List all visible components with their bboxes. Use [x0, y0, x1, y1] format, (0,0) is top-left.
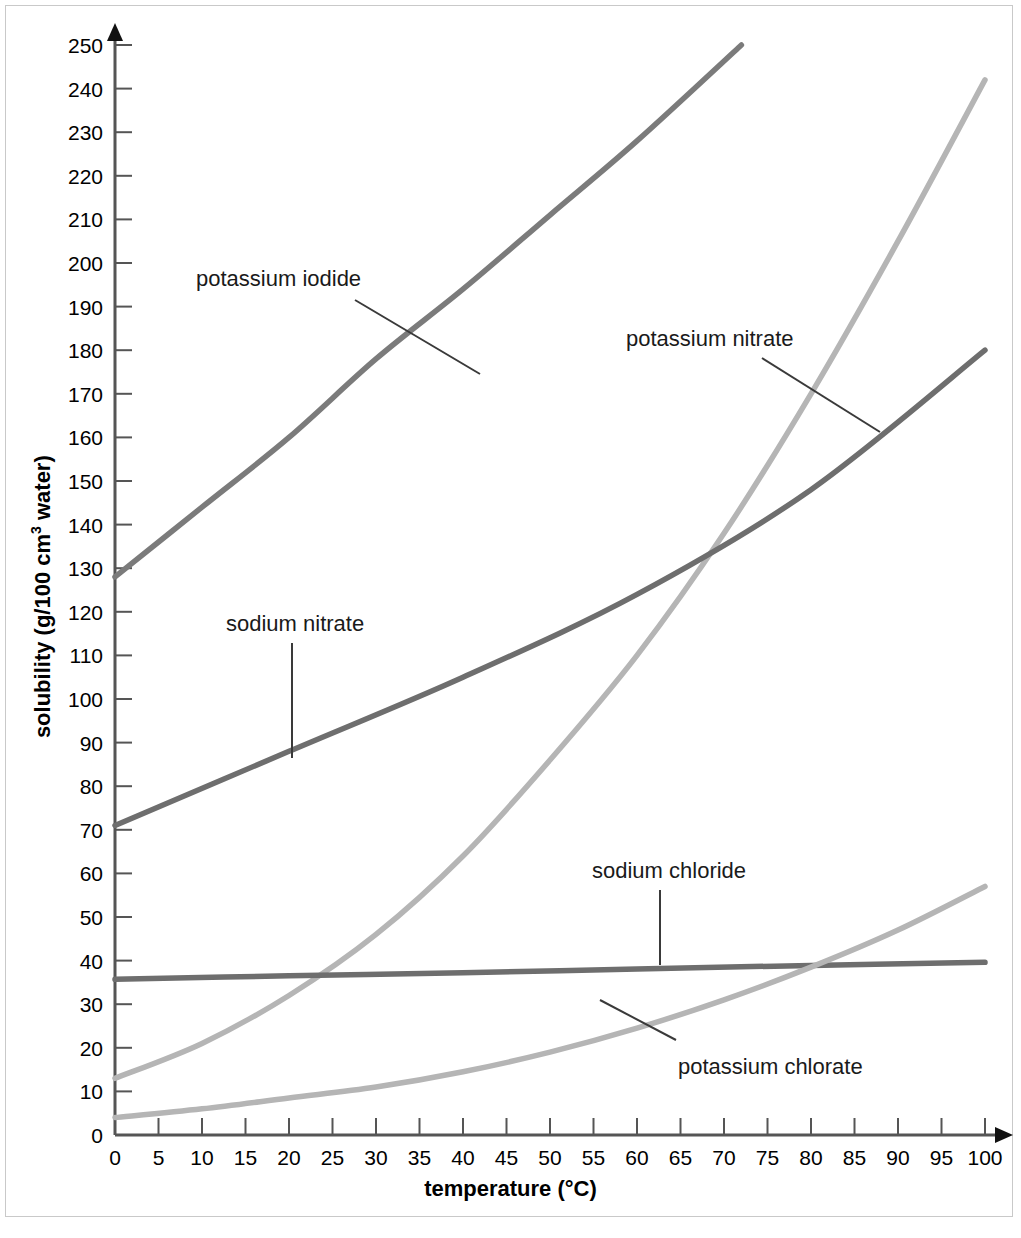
y-axis-tick-label: 220 — [43, 166, 103, 187]
curves-group — [115, 45, 985, 1118]
y-axis-tick-label: 40 — [43, 951, 103, 972]
y-axis-tick-label: 230 — [43, 122, 103, 143]
series-curve-potassium-iodide — [115, 45, 741, 577]
y-axis-title-before: solubility (g/100 cm — [30, 534, 55, 738]
y-axis-tick-label: 10 — [43, 1081, 103, 1102]
series-label-sodium-chloride: sodium chloride — [592, 860, 746, 882]
series-label-potassium-chlorate: potassium chlorate — [678, 1056, 863, 1078]
y-axis-tick-label: 0 — [43, 1125, 103, 1146]
series-curve-potassium-nitrate — [115, 80, 985, 1078]
series-curve-sodium-chloride — [115, 962, 985, 979]
chart-page: 0102030405060708090100110120130140150160… — [0, 0, 1021, 1238]
x-axis-tick-label: 100 — [955, 1147, 1015, 1168]
y-axis-tick-label: 50 — [43, 907, 103, 928]
x-axis-arrow-icon — [995, 1127, 1013, 1143]
y-axis-tick-label: 20 — [43, 1038, 103, 1059]
y-axis-tick-label: 200 — [43, 253, 103, 274]
y-axis-title-after: water) — [30, 455, 55, 526]
y-axis-tick-label: 210 — [43, 209, 103, 230]
series-label-sodium-nitrate: sodium nitrate — [226, 613, 364, 635]
y-axis-arrow-icon — [107, 23, 123, 41]
y-axis-tick-label: 240 — [43, 79, 103, 100]
series-curve-sodium-nitrate — [115, 350, 985, 825]
y-axis-tick-label: 190 — [43, 297, 103, 318]
x-axis-title: temperature (°C) — [0, 1176, 1021, 1202]
solubility-chart-plot — [0, 0, 1021, 1238]
leader-line-potassium-nitrate — [762, 358, 880, 432]
y-axis-title-superscript: 3 — [28, 526, 44, 534]
series-label-potassium-nitrate: potassium nitrate — [626, 328, 794, 350]
series-curve-potassium-chlorate — [115, 886, 985, 1117]
series-label-potassium-iodide: potassium iodide — [196, 268, 361, 290]
y-axis-tick-label: 30 — [43, 994, 103, 1015]
y-axis-title: solubility (g/100 cm3 water) — [28, 317, 55, 877]
y-axis-tick-label: 250 — [43, 35, 103, 56]
